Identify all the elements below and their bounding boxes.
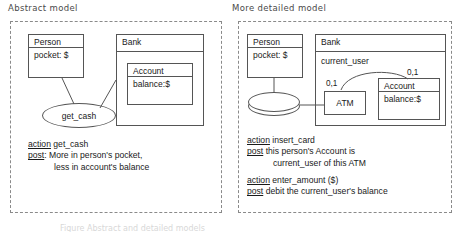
class-name: Bank: [117, 35, 203, 52]
class-attribute: pocket: $: [29, 48, 83, 60]
spec-post-continuation: less in account's balance: [28, 162, 149, 173]
spec-block-enter-amount: action enter_amount ($) post debit the c…: [247, 175, 388, 198]
association-label-current-user: current_user: [321, 56, 369, 66]
spec-action-text: get_cash: [51, 139, 88, 149]
spec-keyword-action: action: [247, 175, 270, 185]
figure-caption: Figure Abstract and detailed models: [60, 224, 205, 232]
class-box-person-abstract[interactable]: Person pocket: $: [28, 34, 84, 78]
panel-title-detailed: More detailed model: [232, 3, 326, 13]
spec-action-text: enter_amount ($): [270, 175, 338, 185]
class-name: Person: [29, 35, 83, 48]
usecase-ellipse-get-cash[interactable]: get_cash: [42, 103, 116, 128]
class-name: Account: [379, 79, 439, 92]
class-attribute: balance:$: [128, 77, 192, 89]
spec-post-text: debit the current_user's balance: [263, 186, 387, 196]
spec-keyword-post: post: [247, 146, 263, 156]
class-name: Account: [128, 64, 192, 77]
spec-keyword-post: post: [247, 186, 263, 196]
spec-action-text: insert_card: [270, 135, 315, 145]
class-attribute: pocket: $: [248, 48, 302, 60]
class-name: Person: [248, 35, 302, 48]
panel-title-abstract: Abstract model: [8, 3, 78, 13]
class-name: ATM: [325, 92, 365, 108]
multiplicity-left: 0,1: [326, 79, 337, 88]
spec-post-continuation: current_user of this ATM: [247, 158, 366, 169]
class-box-account-abstract[interactable]: Account balance:$: [127, 63, 193, 105]
class-attribute: balance:$: [379, 92, 439, 104]
spec-keyword-action: action: [247, 135, 270, 145]
class-box-person-detailed[interactable]: Person pocket: $: [247, 34, 303, 78]
spec-block-get-cash: action get_cash post: More in person's p…: [28, 139, 149, 173]
spec-keyword-post: post: [28, 150, 44, 160]
usecase-ellipse-unlabeled[interactable]: [248, 92, 300, 112]
spec-post-text: this person's Account is: [263, 146, 355, 156]
usecase-label: get_cash: [62, 111, 97, 121]
class-box-account-detailed[interactable]: Account balance:$: [378, 78, 440, 120]
spec-post-text: : More in person's pocket,: [44, 150, 142, 160]
spec-block-insert-card: action insert_card post this person's Ac…: [247, 135, 366, 169]
class-name: Bank: [316, 35, 445, 52]
spec-keyword-action: action: [28, 139, 51, 149]
class-box-atm[interactable]: ATM: [324, 91, 366, 115]
multiplicity-right: 0,1: [407, 68, 418, 77]
